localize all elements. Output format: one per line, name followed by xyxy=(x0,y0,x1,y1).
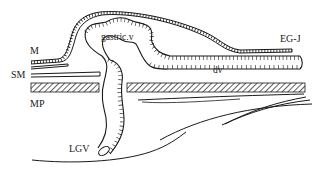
anatomy-diagram: M SM MP gastric.v EG-J dv LGV xyxy=(0,0,324,184)
label-egj: EG-J xyxy=(280,33,301,44)
label-mucosa: M xyxy=(30,45,39,56)
muscularis-propria-layer xyxy=(31,83,305,92)
label-submucosa: SM xyxy=(11,69,26,80)
label-muscularis-propria: MP xyxy=(30,98,45,109)
left-gastric-vein xyxy=(97,56,124,157)
gastric-vein xyxy=(85,18,302,69)
label-left-gastric-vein: LGV xyxy=(69,143,90,154)
mucosa-layer xyxy=(31,12,292,69)
submucosa-layer xyxy=(31,72,100,77)
label-dilated-vein: dv xyxy=(213,65,223,75)
label-gastric-vein: gastric.v xyxy=(101,32,134,42)
